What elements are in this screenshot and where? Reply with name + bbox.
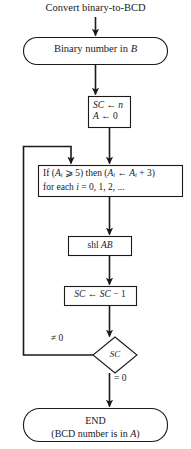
node-shift-label: shl AB	[68, 240, 132, 251]
node-condition-line-1: If (Ai ⩾ 5) then (Ai ← Ai + 3)	[43, 167, 183, 181]
node-end-line-2: (BCD number is in A)	[23, 427, 168, 440]
edge-label-exit: = 0	[114, 373, 138, 384]
node-end-label: END (BCD number is in A)	[23, 414, 168, 440]
node-decision-label: SC	[93, 349, 137, 359]
node-init-label: SC ← n A ← 0	[88, 100, 131, 122]
diagram-title: Convert binary-to-BCD	[0, 2, 191, 14]
node-condition-line-2: for each i = 0, 1, 2, ...	[43, 181, 183, 195]
node-decrement-label: SC ← SC − 1	[64, 289, 136, 300]
edge-label-loop-back: ≠ 0	[42, 333, 72, 344]
flowchart-shapes-layer	[0, 0, 191, 449]
node-condition-label: If (Ai ⩾ 5) then (Ai ← Ai + 3) for each …	[38, 167, 183, 195]
node-start-label: Binary number in B	[23, 43, 168, 55]
node-end-line-1: END	[23, 414, 168, 427]
flowchart-diagram: Convert binary-to-BCD Binary number in B…	[0, 0, 191, 449]
node-init-line-1: SC ← n	[93, 100, 131, 111]
node-init-line-2: A ← 0	[93, 111, 131, 122]
